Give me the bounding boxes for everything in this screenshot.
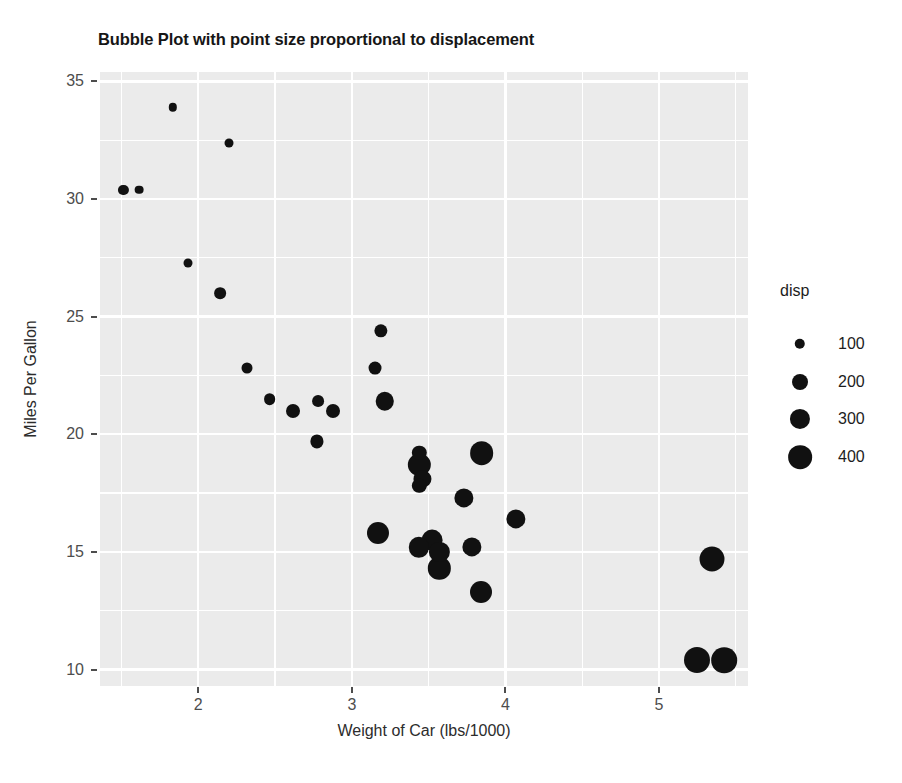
data-point <box>135 185 144 194</box>
legend-item[interactable]: 100 <box>778 326 896 362</box>
y-axis-tick-mark <box>91 669 97 671</box>
gridline-major-horizontal <box>100 80 748 82</box>
gridline-major-horizontal <box>100 433 748 435</box>
y-axis-tick-mark <box>91 433 97 435</box>
plot-panel <box>100 72 748 686</box>
data-point <box>264 393 276 405</box>
data-point <box>699 546 724 571</box>
data-point <box>225 138 234 147</box>
gridline-major-vertical <box>658 72 660 686</box>
y-axis-tick-mark <box>91 80 97 82</box>
x-axis-tick-mark <box>197 687 199 693</box>
gridline-minor-vertical <box>121 72 122 686</box>
data-point <box>470 581 492 603</box>
gridlines <box>100 72 748 686</box>
data-point <box>286 404 300 418</box>
chart-figure: Bubble Plot with point size proportional… <box>0 0 902 783</box>
x-axis-tick-mark <box>658 687 660 693</box>
x-axis-tick-label: 4 <box>501 696 510 714</box>
x-axis-tick-label: 2 <box>194 696 203 714</box>
chart-title: Bubble Plot with point size proportional… <box>98 30 534 49</box>
data-point <box>312 395 324 407</box>
data-point <box>242 363 253 374</box>
gridline-major-horizontal <box>100 668 748 670</box>
y-axis-tick-mark <box>91 316 97 318</box>
y-axis-tick-mark <box>91 198 97 200</box>
legend-item-label: 100 <box>838 335 865 353</box>
gridline-minor-vertical <box>582 72 583 686</box>
legend-key-bubble <box>792 374 808 390</box>
data-point <box>214 287 226 299</box>
legend-key-bubble <box>795 339 805 349</box>
legend-item-label: 200 <box>838 373 865 391</box>
gridline-minor-vertical <box>274 72 275 686</box>
gridline-minor-vertical <box>735 72 736 686</box>
legend-item-label: 400 <box>838 448 865 466</box>
y-axis-tick-label: 35 <box>52 72 84 90</box>
x-axis-tick-mark <box>504 687 506 693</box>
gridline-major-vertical <box>351 72 353 686</box>
legend-key-bubble <box>790 409 810 429</box>
data-point <box>326 404 340 418</box>
data-point <box>684 647 710 673</box>
legend-item[interactable]: 400 <box>778 439 896 475</box>
x-axis-title: Weight of Car (lbs/1000) <box>100 722 748 740</box>
data-point <box>376 392 395 411</box>
y-axis-tick-mark <box>91 551 97 553</box>
y-axis-tick-label: 10 <box>52 661 84 679</box>
data-point <box>711 647 737 673</box>
data-point <box>184 258 193 267</box>
gridline-minor-vertical <box>428 72 429 686</box>
legend-item[interactable]: 300 <box>778 401 896 437</box>
x-axis-tick-mark <box>351 687 353 693</box>
gridline-major-horizontal <box>100 198 748 200</box>
x-axis-tick-label: 3 <box>347 696 356 714</box>
y-axis-tick-label: 30 <box>52 190 84 208</box>
gridline-major-vertical <box>197 72 199 686</box>
data-point <box>470 441 494 465</box>
legend-item-label: 300 <box>838 410 865 428</box>
data-point <box>367 522 389 544</box>
y-axis-tick-label: 15 <box>52 543 84 561</box>
y-axis-tick-label: 25 <box>52 308 84 326</box>
y-axis-tick-label: 20 <box>52 425 84 443</box>
gridline-major-horizontal <box>100 315 748 317</box>
legend-key-bubble <box>788 445 812 469</box>
y-axis-title: Miles Per Gallon <box>22 72 40 686</box>
x-axis-tick-label: 5 <box>654 696 663 714</box>
legend-item[interactable]: 200 <box>778 364 896 400</box>
gridline-major-vertical <box>504 72 506 686</box>
legend-title: disp <box>780 282 809 300</box>
data-point <box>368 362 381 375</box>
